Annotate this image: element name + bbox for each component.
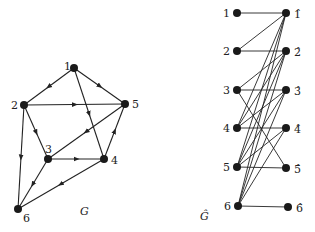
graph-ghat-nodes: 1234561̂2̂3̂4̂5̂6̂ bbox=[223, 7, 303, 215]
left-node-label-6: 6 bbox=[224, 200, 231, 213]
graph-g-nodes: 123456 bbox=[11, 60, 139, 225]
arc-4-6 bbox=[18, 159, 104, 209]
arc-2-5 bbox=[24, 104, 125, 105]
node-1 bbox=[70, 64, 78, 72]
left-node-label-1: 1 bbox=[223, 7, 230, 20]
node-3 bbox=[44, 155, 52, 163]
graph-g-caption: G bbox=[80, 205, 89, 218]
arc-2-6 bbox=[18, 105, 24, 209]
right-node-3h bbox=[282, 86, 290, 94]
node-4 bbox=[100, 155, 108, 163]
right-node-label-5h: 5̂ bbox=[294, 163, 301, 176]
left-node-4 bbox=[233, 124, 241, 132]
edge-6-6h bbox=[238, 206, 288, 207]
node-label-3: 3 bbox=[45, 143, 52, 156]
right-node-5h bbox=[282, 164, 290, 172]
edge-3-2h bbox=[237, 51, 286, 90]
right-node-label-3h: 3̂ bbox=[294, 85, 301, 98]
right-node-label-2h: 2̂ bbox=[294, 46, 301, 59]
right-node-label-6h: 6̂ bbox=[296, 202, 303, 215]
arc-1-4 bbox=[74, 68, 104, 159]
right-node-6h bbox=[284, 203, 292, 211]
arc-1-2 bbox=[24, 68, 74, 105]
arc-4-5 bbox=[104, 104, 125, 159]
left-node-label-3: 3 bbox=[223, 84, 230, 97]
graph-ghat-edges bbox=[237, 13, 288, 207]
node-label-1: 1 bbox=[64, 60, 71, 73]
node-5 bbox=[121, 100, 129, 108]
graph-g-edges bbox=[18, 68, 125, 209]
right-node-label-4h: 4̂ bbox=[294, 123, 301, 136]
node-label-4: 4 bbox=[111, 154, 118, 167]
graph-ghat-caption: Ĝ bbox=[200, 209, 209, 223]
right-node-4h bbox=[282, 124, 290, 132]
right-node-label-1h: 1̂ bbox=[294, 8, 301, 21]
node-label-5: 5 bbox=[132, 98, 139, 111]
right-node-1h bbox=[282, 9, 290, 17]
edge-5-5h bbox=[237, 167, 286, 168]
left-node-5 bbox=[233, 163, 241, 171]
left-node-label-4: 4 bbox=[223, 122, 230, 135]
left-node-6 bbox=[234, 202, 242, 210]
edge-4-2h bbox=[237, 51, 286, 128]
left-node-label-2: 2 bbox=[223, 45, 230, 58]
node-label-6: 6 bbox=[23, 212, 30, 225]
left-node-label-5: 5 bbox=[223, 161, 230, 174]
edge-5-4h bbox=[237, 128, 286, 167]
arc-3-6 bbox=[18, 159, 48, 209]
edge-4-3h bbox=[237, 90, 286, 128]
node-label-2: 2 bbox=[11, 99, 18, 112]
arc-5-3 bbox=[48, 104, 125, 159]
diagram-canvas: 123456 1234561̂2̂3̂4̂5̂6̂ G Ĝ bbox=[0, 0, 315, 232]
right-node-2h bbox=[282, 47, 290, 55]
edge-2-1h bbox=[237, 13, 286, 51]
left-node-1 bbox=[233, 9, 241, 17]
node-6 bbox=[14, 205, 22, 213]
arc-1-5 bbox=[74, 68, 125, 104]
node-2 bbox=[20, 101, 28, 109]
left-node-2 bbox=[233, 47, 241, 55]
left-node-3 bbox=[233, 86, 241, 94]
